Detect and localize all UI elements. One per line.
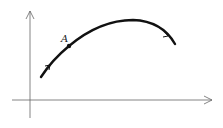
- point-a-marker: [67, 44, 71, 48]
- curve: [41, 20, 175, 77]
- x-axis: [12, 96, 212, 104]
- diagram-canvas: A: [0, 0, 223, 128]
- y-axis: [26, 11, 34, 118]
- point-a-label: A: [60, 33, 68, 44]
